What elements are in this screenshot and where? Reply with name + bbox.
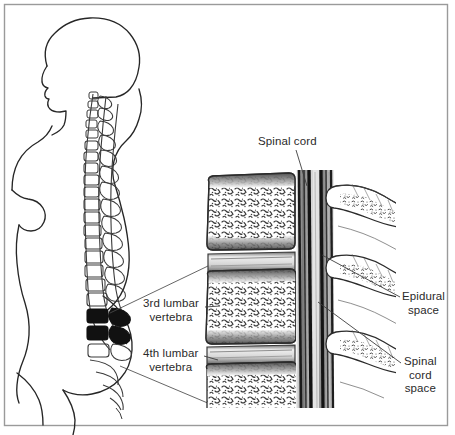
highlight-l4-body	[87, 326, 108, 340]
vertebral-body-l3	[206, 269, 296, 344]
spinous-process-3	[326, 330, 410, 374]
vertebral-body-l4	[207, 362, 298, 412]
highlight-l4-process	[109, 326, 131, 344]
label-spinal-cord-space: Spinal cord space	[404, 355, 437, 396]
cord-band-posterior	[321, 170, 323, 410]
spinous-process-1	[326, 184, 410, 228]
cord-band-anterior	[309, 170, 311, 410]
highlight-l3-process	[109, 308, 131, 326]
spinous-process-2	[326, 254, 410, 298]
anatomical-figure: Spinal cord 3rd lumbar vertebra 4th lumb…	[0, 0, 455, 435]
vertebral-body-top	[207, 173, 295, 250]
body-silhouette	[12, 18, 142, 435]
highlight-l3-body	[87, 309, 108, 323]
illustration-canvas	[0, 0, 455, 435]
intervertebral-disc-lower	[207, 345, 295, 364]
label-third-lumbar-vertebra: 3rd lumbar vertebra	[143, 297, 199, 324]
label-epidural-space: Epidural space	[402, 290, 445, 317]
spinous-processes	[326, 170, 411, 410]
vertebral-column	[84, 92, 131, 419]
label-spinal-cord: Spinal cord	[258, 135, 317, 149]
label-fourth-lumbar-vertebra: 4th lumbar vertebra	[143, 347, 198, 374]
detail-view	[206, 170, 411, 412]
